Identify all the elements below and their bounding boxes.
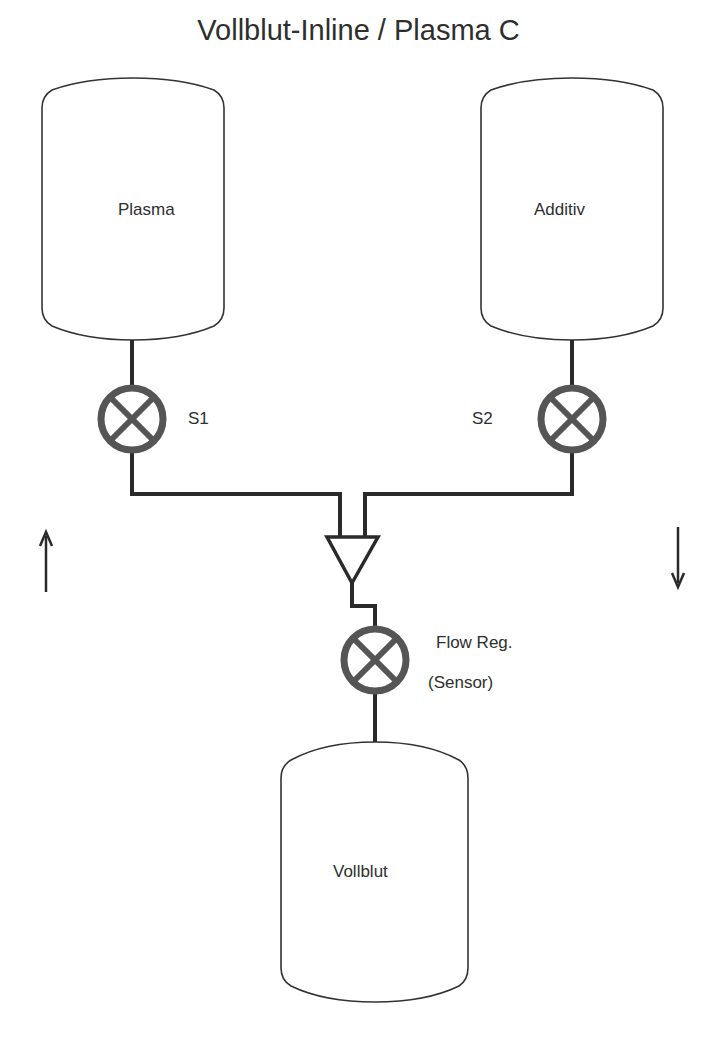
tank-additiv: Additiv [481, 78, 663, 340]
valve-label-s1: S1 [188, 409, 209, 428]
valve-s1-icon[interactable] [101, 388, 163, 450]
tank-label-plasma: Plasma [118, 200, 175, 219]
tank-label-additiv: Additiv [534, 200, 586, 219]
arrow-down-icon [672, 527, 684, 587]
tank-vollblut: Vollblut [281, 742, 468, 1002]
valve-flow-reg-icon[interactable] [344, 629, 406, 691]
valve-label-flow-reg: Flow Reg. [436, 633, 513, 652]
tank-label-vollblut: Vollblut [333, 862, 388, 881]
valve-label-s2: S2 [472, 409, 493, 428]
valve-sublabel-sensor: (Sensor) [428, 673, 493, 692]
arrow-up-icon [40, 532, 52, 592]
mixer-triangle-icon [327, 537, 378, 583]
flow-diagram: Plasma Additiv Vollblut S1 S2 F [0, 0, 717, 1037]
tank-plasma: Plasma [42, 78, 224, 340]
valve-s2-icon[interactable] [541, 388, 603, 450]
